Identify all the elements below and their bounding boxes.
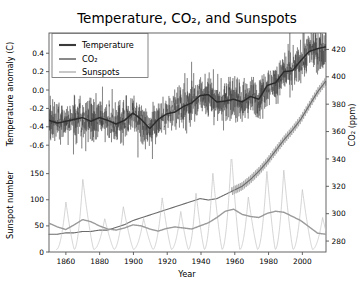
tick-label-co2: 420 bbox=[332, 45, 346, 54]
tick-label-year: 1940 bbox=[192, 257, 211, 266]
tick-label-year: 1980 bbox=[259, 257, 278, 266]
tick-label-year: 1880 bbox=[90, 257, 109, 266]
tick-label-co2: 340 bbox=[332, 155, 346, 164]
tick-label-co2: 380 bbox=[332, 100, 346, 109]
tick-label-year: 1900 bbox=[124, 257, 143, 266]
tick-label-sunspot: 150 bbox=[30, 169, 44, 178]
legend: Temperature CO₂ Sunspots bbox=[52, 34, 148, 78]
tick-label-co2: 280 bbox=[332, 237, 346, 246]
year-axis-label: Year bbox=[177, 269, 196, 279]
tick-label-temperature: 0.2 bbox=[32, 67, 44, 76]
tick-label-year: 1860 bbox=[56, 257, 75, 266]
sunspot-axis-label: Sunspot number bbox=[5, 170, 15, 238]
tick-label-temperature: -0.4 bbox=[30, 122, 45, 131]
legend-label-temperature: Temperature bbox=[81, 40, 134, 50]
tick-label-sunspot: 50 bbox=[35, 221, 45, 230]
tick-label-temperature: 0.0 bbox=[32, 86, 44, 95]
tick-label-co2: 360 bbox=[332, 127, 346, 136]
chart-svg: Temperature, CO₂, and Sunspots 0.40.20.0… bbox=[0, 0, 363, 287]
tick-label-temperature: -0.2 bbox=[30, 104, 44, 113]
tick-label-sunspot: 0 bbox=[39, 248, 44, 257]
tick-label-co2: 320 bbox=[332, 182, 346, 191]
figure-canvas: Temperature, CO₂, and Sunspots 0.40.20.0… bbox=[0, 0, 363, 287]
tick-label-co2: 400 bbox=[332, 72, 346, 81]
tick-label-year: 1920 bbox=[158, 257, 177, 266]
tick-label-co2: 300 bbox=[332, 209, 346, 218]
chart-title: Temperature, CO₂, and Sunspots bbox=[76, 10, 297, 26]
legend-label-sunspots: Sunspots bbox=[82, 67, 120, 77]
co2-axis-label: CO₂ (ppm) bbox=[347, 104, 357, 147]
legend-label-co2: CO₂ bbox=[82, 54, 97, 64]
temperature-axis-label: Temperature anomaly (C) bbox=[5, 42, 15, 148]
tick-label-temperature: 0.4 bbox=[32, 49, 44, 58]
tick-label-sunspot: 100 bbox=[30, 195, 44, 204]
tick-label-year: 1960 bbox=[225, 257, 244, 266]
tick-label-temperature: -0.6 bbox=[30, 141, 45, 150]
tick-label-year: 2000 bbox=[293, 257, 312, 266]
